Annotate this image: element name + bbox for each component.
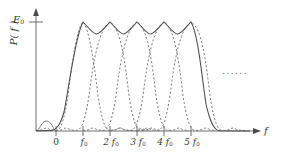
- x-tick-label-0: 0: [53, 137, 59, 147]
- subcarrier-curves-group: [36, 22, 245, 131]
- subcarrier-curve-5: [137, 22, 245, 131]
- x-tick-label-2f0: 2 f0: [103, 137, 118, 147]
- spectrum-figure: E0 P( f ) f ...... 0 f0 2 f0 3 f0 4 f0 5…: [0, 0, 285, 164]
- continuation-ellipsis: ......: [222, 66, 248, 76]
- x-tick-label-3f0: 3 f0: [130, 137, 145, 147]
- y-axis-arrow-icon: [33, 8, 39, 16]
- x-axis-arrow-icon: [253, 128, 261, 134]
- subcarrier-curve-1: [36, 22, 151, 131]
- x-tick-label-4f0: 4 f0: [157, 137, 172, 147]
- envelope-curve: [36, 22, 250, 131]
- y-axis-label: P( f ): [9, 10, 19, 56]
- x-tick-label-f0: f0: [81, 137, 88, 147]
- x-axis-label: f: [264, 126, 268, 136]
- x-tick-label-5f0: 5 f0: [184, 137, 199, 147]
- y-axis-top-label-sub: 0: [20, 18, 24, 25]
